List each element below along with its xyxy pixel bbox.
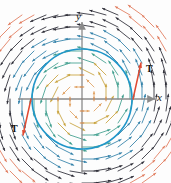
field-arrowhead bbox=[71, 174, 74, 176]
tangent-label-right: T bbox=[146, 64, 153, 74]
field-arrowhead bbox=[112, 71, 114, 74]
vector-field-arrows bbox=[0, 5, 171, 183]
tangent-vector-left bbox=[23, 99, 31, 135]
x-axis-label: x bbox=[157, 92, 162, 103]
field-arrowhead bbox=[69, 104, 72, 107]
field-arrowhead bbox=[42, 30, 45, 32]
field-arrowhead bbox=[49, 124, 51, 127]
field-arrowhead bbox=[148, 59, 150, 62]
field-arrowhead bbox=[107, 129, 110, 131]
field-arrowhead bbox=[13, 136, 15, 139]
field-arrowhead bbox=[78, 57, 81, 59]
field-arrowhead bbox=[40, 100, 42, 103]
field-arrowhead bbox=[170, 119, 171, 122]
field-arrow bbox=[166, 132, 171, 147]
plot-canvas bbox=[0, 0, 171, 183]
field-arrowhead bbox=[18, 101, 21, 104]
field-arrowhead bbox=[83, 138, 86, 140]
tangent-label-left: T bbox=[11, 124, 18, 134]
field-arrowhead bbox=[93, 92, 96, 95]
field-arrowhead bbox=[90, 21, 93, 23]
tangent-vector-right bbox=[133, 63, 141, 99]
field-arrowhead bbox=[121, 95, 123, 98]
field-arrowhead bbox=[157, 107, 159, 110]
field-arrowhead bbox=[75, 86, 78, 89]
field-arrowhead bbox=[4, 88, 6, 91]
field-arrow bbox=[0, 27, 10, 39]
y-axis-label: y bbox=[76, 11, 81, 22]
field-arrowhead bbox=[54, 66, 57, 68]
field-arrowhead bbox=[169, 107, 171, 110]
field-arrowhead bbox=[119, 165, 122, 167]
vector-field-figure: y x T T bbox=[0, 0, 171, 183]
field-arrowhead bbox=[77, 35, 80, 38]
field-arrowhead bbox=[84, 161, 87, 164]
field-arrowhead bbox=[144, 94, 147, 97]
field-arrowhead bbox=[87, 110, 90, 113]
field-arrow bbox=[0, 39, 10, 52]
field-arrow bbox=[166, 145, 171, 159]
